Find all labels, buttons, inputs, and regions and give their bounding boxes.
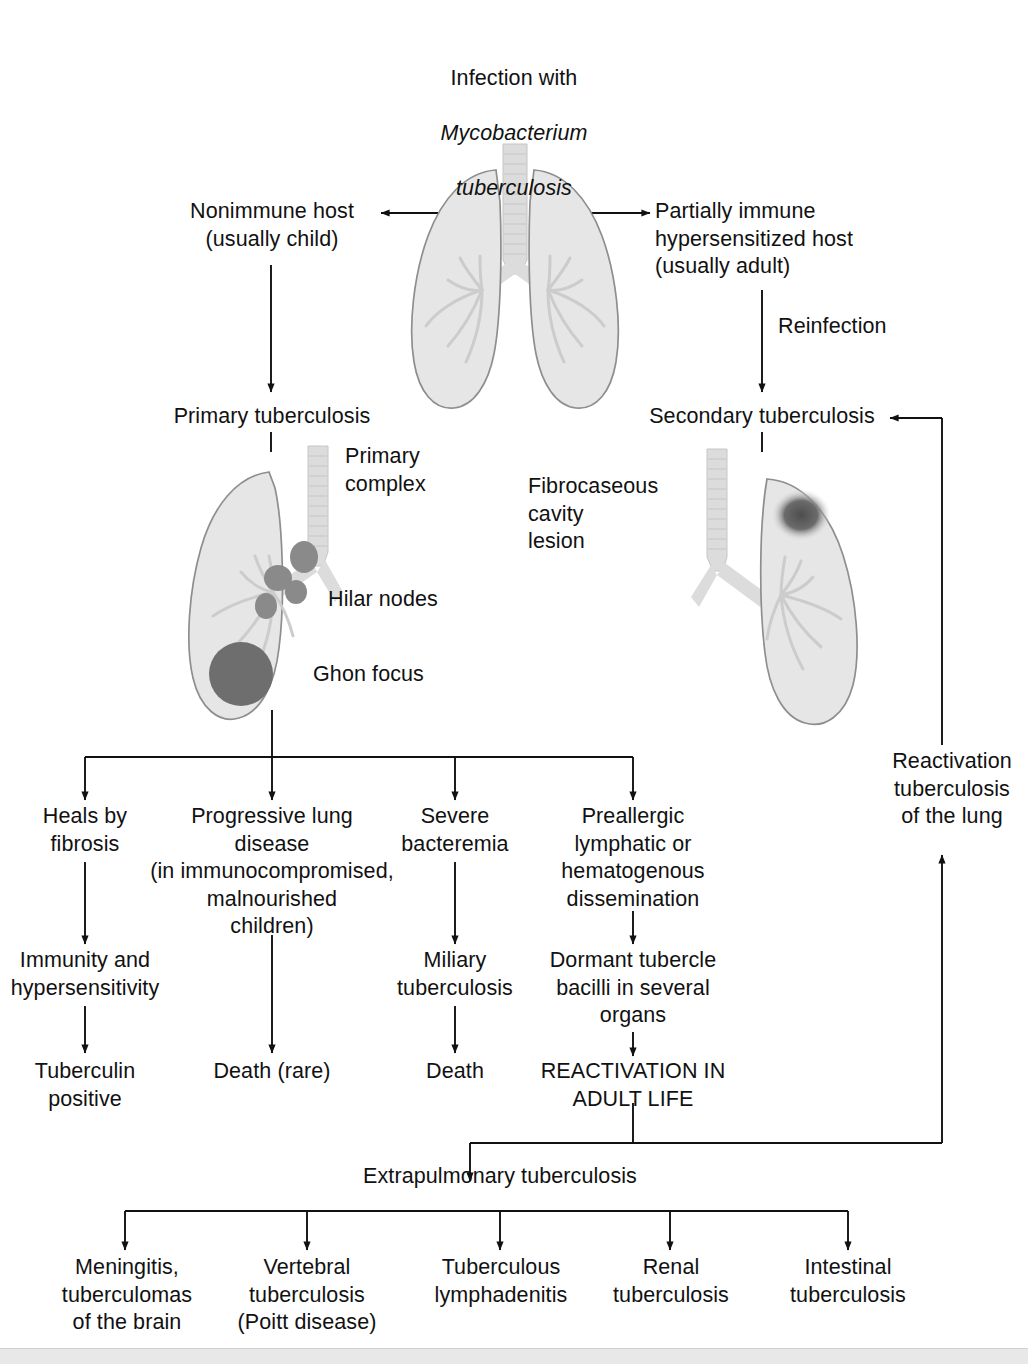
node-secondary-tuberculosis: Secondary tuberculosis: [632, 403, 892, 431]
root-line-1: Infection with: [354, 65, 674, 93]
node-intestinal-tuberculosis: Intestinal tuberculosis: [768, 1254, 928, 1309]
node-meningitis-tuberculomas: Meningitis, tuberculomas of the brain: [48, 1254, 206, 1337]
node-primary-tuberculosis: Primary tuberculosis: [141, 403, 403, 431]
hilar-node-upper: [290, 541, 318, 573]
fibrocaseous-cavity-lesion: [771, 489, 831, 541]
fibrocaseous-cavity-lung-illustration: [655, 445, 895, 735]
label-primary-complex: Primary complex: [345, 443, 485, 498]
node-reactivation-tuberculosis-of-the-lung: Reactivation tuberculosis of the lung: [876, 748, 1028, 831]
label-hilar-nodes: Hilar nodes: [328, 586, 488, 614]
scan-bottom-band: [0, 1348, 1028, 1364]
node-immunity-and-hypersensitivity: Immunity and hypersensitivity: [0, 947, 175, 1002]
node-heals-by-fibrosis: Heals by fibrosis: [15, 803, 155, 858]
node-reactivation-in-adult-life: REACTIVATION IN ADULT LIFE: [523, 1058, 743, 1113]
node-tuberculin-positive: Tuberculin positive: [18, 1058, 152, 1113]
ghon-focus-lesion: [209, 642, 273, 706]
hilar-node-lower: [285, 580, 307, 604]
edge-label-reinfection: Reinfection: [778, 313, 938, 341]
node-dormant-tubercle-bacilli: Dormant tubercle bacilli in several orga…: [528, 947, 738, 1030]
node-death: Death: [395, 1058, 515, 1086]
node-preallergic-dissemination: Preallergic lymphatic or hematogenous di…: [533, 803, 733, 913]
root-line-2: Mycobacterium: [354, 120, 674, 148]
node-death-rare: Death (rare): [192, 1058, 352, 1086]
label-fibrocaseous-cavity-lesion: Fibrocaseous cavity lesion: [528, 473, 688, 556]
node-miliary-tuberculosis: Miliary tuberculosis: [385, 947, 525, 1002]
node-tuberculous-lymphadenitis: Tuberculous lymphadenitis: [418, 1254, 584, 1309]
hilar-node-inner: [255, 593, 277, 619]
node-extrapulmonary-tuberculosis: Extrapulmonary tuberculosis: [330, 1163, 670, 1191]
node-renal-tuberculosis: Renal tuberculosis: [597, 1254, 745, 1309]
node-vertebral-tuberculosis: Vertebral tuberculosis (Poitt disease): [218, 1254, 396, 1337]
label-ghon-focus: Ghon focus: [313, 661, 483, 689]
node-partially-immune-host: Partially immune hypersensitized host (u…: [655, 198, 935, 281]
node-severe-bacteremia: Severe bacteremia: [387, 803, 523, 858]
node-progressive-lung-disease: Progressive lung disease (in immunocompr…: [137, 803, 407, 941]
node-nonimmune-host: Nonimmune host (usually child): [141, 198, 403, 253]
